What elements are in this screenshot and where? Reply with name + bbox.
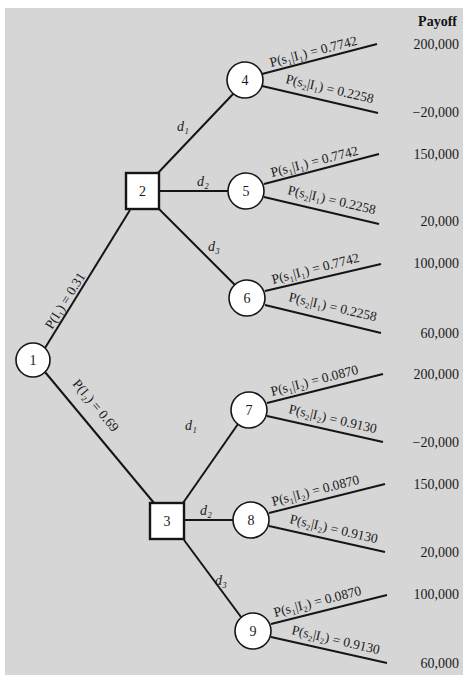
payoff-node7-s1: 200,000 <box>414 367 460 382</box>
svg-text:8: 8 <box>248 513 255 528</box>
payoff-node4-s2: −20,000 <box>413 105 459 120</box>
label-node8-s1: P(s₁|I₂) = 0.0870 <box>270 472 361 509</box>
svg-text:7: 7 <box>246 403 253 418</box>
payoff-node5-s1: 150,000 <box>414 147 460 162</box>
payoff-node4-s1: 200,000 <box>414 37 460 52</box>
payoff-node5-s2: 20,000 <box>421 214 460 229</box>
svg-text:1: 1 <box>30 353 37 368</box>
payoff-node6-s2: 60,000 <box>421 326 460 341</box>
branch-node3-d1 <box>183 424 238 503</box>
svg-text:5: 5 <box>243 184 250 199</box>
decision-node-3: 3 <box>150 503 184 539</box>
label-P-I1: P(I₁) = 0.31 <box>42 270 88 332</box>
branch-I1 <box>45 210 130 348</box>
label-node3-d2: d₂ <box>200 503 212 518</box>
chance-node-4: 4 <box>227 62 263 98</box>
payoff-node8-s2: 20,000 <box>421 545 460 560</box>
branch-I2 <box>45 372 154 503</box>
svg-text:2: 2 <box>139 184 146 199</box>
payoff-node6-s1: 100,000 <box>414 256 460 271</box>
chance-node-9: 9 <box>235 613 271 649</box>
svg-text:3: 3 <box>164 514 171 529</box>
label-node9-s1: P(s₁|I₂) = 0.0870 <box>272 583 363 620</box>
svg-text:6: 6 <box>244 291 251 306</box>
payoff-node8-s1: 150,000 <box>414 477 460 492</box>
label-node5-s1: P(s₁|I₁) = 0.7742 <box>269 143 360 180</box>
label-node3-d3: d₃ <box>215 573 227 588</box>
branch-node2-d1 <box>157 93 234 174</box>
chance-node-7: 7 <box>231 392 267 428</box>
chance-node-6: 6 <box>229 280 265 316</box>
payoff-node7-s2: −20,000 <box>413 435 459 450</box>
payoff-header: Payoff <box>418 14 457 29</box>
decision-tree: 1 2 3 4 5 6 7 8 9 P(I₁) = 0.31 P(I₂) = 0… <box>0 0 468 683</box>
payoff-node9-s2: 60,000 <box>421 656 460 671</box>
label-node2-d2: d₂ <box>197 174 209 189</box>
label-node2-d3: d₃ <box>208 239 220 254</box>
label-node7-s1: P(s₁|I₂) = 0.0870 <box>269 362 360 399</box>
branch-node2-d3 <box>159 209 235 285</box>
branch-node3-d3 <box>184 540 241 617</box>
label-node6-s1: P(s₁|I₁) = 0.7742 <box>270 250 361 287</box>
decision-node-2: 2 <box>126 173 159 209</box>
label-node2-d1: d₁ <box>177 119 189 134</box>
svg-text:9: 9 <box>250 624 257 639</box>
payoff-node9-s1: 100,000 <box>414 587 460 602</box>
chance-node-5: 5 <box>228 173 264 209</box>
chance-node-8: 8 <box>233 502 269 538</box>
label-P-I2: P(I₂) = 0.69 <box>70 376 123 435</box>
chance-node-1: 1 <box>16 343 50 377</box>
label-node3-d1: d₁ <box>185 418 197 433</box>
svg-text:4: 4 <box>242 73 249 88</box>
label-node6-s2: P(s₂|I₁) = 0.2258 <box>287 289 378 324</box>
